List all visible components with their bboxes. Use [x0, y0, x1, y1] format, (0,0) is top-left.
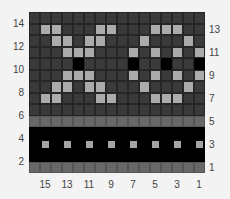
row-label: 5 — [209, 116, 225, 127]
chart-cell — [84, 70, 95, 82]
chart-cell — [117, 58, 128, 70]
chart-cell — [84, 162, 95, 174]
chart-grid — [29, 12, 205, 173]
chart-cell — [183, 104, 194, 116]
chart-cell — [161, 12, 172, 24]
chart-cell — [84, 47, 95, 59]
chart-cell — [106, 12, 117, 24]
chart-cell — [194, 162, 205, 174]
chart-cell — [106, 116, 117, 128]
chart-cell — [128, 116, 139, 128]
chart-cell — [95, 70, 106, 82]
chart-cell — [194, 127, 205, 139]
chart-cell — [95, 139, 106, 151]
chart-cell — [62, 81, 73, 93]
chart-cell — [84, 58, 95, 70]
chart-cell — [183, 93, 194, 105]
chart-cell — [29, 70, 40, 82]
chart-cell — [139, 58, 150, 70]
chart-cell — [194, 12, 205, 24]
chart-cell — [73, 93, 84, 105]
chart-cell — [73, 116, 84, 128]
chart-cell — [29, 150, 40, 162]
chart-cell — [128, 104, 139, 116]
chart-cell — [73, 139, 84, 151]
chart-cell — [128, 24, 139, 36]
chart-cell — [29, 139, 40, 151]
chart-cell — [150, 93, 161, 105]
row-label: 4 — [8, 133, 24, 144]
chart-cell — [183, 139, 194, 151]
chart-cell — [139, 104, 150, 116]
chart-cell — [117, 12, 128, 24]
chart-cell — [194, 58, 205, 70]
chart-cell — [117, 35, 128, 47]
chart-cell — [194, 139, 205, 151]
chart-cell — [183, 24, 194, 36]
chart-cell — [194, 150, 205, 162]
chart-cell — [51, 47, 62, 59]
column-label: 1 — [191, 179, 207, 190]
chart-cell — [161, 70, 172, 82]
chart-cell — [128, 47, 139, 59]
chart-cell — [150, 58, 161, 70]
chart-cell — [95, 116, 106, 128]
chart-cell — [172, 12, 183, 24]
chart-cell — [117, 127, 128, 139]
chart-cell — [128, 127, 139, 139]
chart-cell — [161, 150, 172, 162]
chart-cell — [62, 12, 73, 24]
chart-cell — [106, 24, 117, 36]
chart-cell — [84, 127, 95, 139]
chart-cell — [150, 24, 161, 36]
chart-cell — [73, 35, 84, 47]
chart-cell — [73, 150, 84, 162]
column-label: 11 — [81, 179, 97, 190]
chart-cell — [29, 116, 40, 128]
chart-cell — [40, 81, 51, 93]
chart-cell — [183, 58, 194, 70]
chart-cell — [194, 47, 205, 59]
chart-cell — [172, 58, 183, 70]
chart-cell — [62, 116, 73, 128]
chart-cell — [73, 47, 84, 59]
chart-cell — [172, 35, 183, 47]
row-label: 12 — [8, 41, 24, 52]
chart-cell — [172, 150, 183, 162]
chart-cell — [183, 127, 194, 139]
chart-cell — [139, 116, 150, 128]
column-label: 15 — [37, 179, 53, 190]
chart-cell — [139, 35, 150, 47]
chart-cell — [106, 47, 117, 59]
chart-cell — [29, 127, 40, 139]
chart-cell — [183, 35, 194, 47]
chart-cell — [95, 24, 106, 36]
chart-cell — [161, 81, 172, 93]
chart-cell — [62, 58, 73, 70]
chart-cell — [73, 127, 84, 139]
chart-cell — [95, 150, 106, 162]
chart-cell — [183, 47, 194, 59]
chart-cell — [29, 24, 40, 36]
chart-cell — [194, 81, 205, 93]
chart-cell — [40, 139, 51, 151]
chart-cell — [40, 93, 51, 105]
column-label: 3 — [169, 179, 185, 190]
chart-cell — [51, 70, 62, 82]
chart-cell — [172, 104, 183, 116]
chart-cell — [150, 150, 161, 162]
chart-cell — [62, 150, 73, 162]
chart-cell — [139, 47, 150, 59]
chart-cell — [150, 12, 161, 24]
chart-cell — [139, 93, 150, 105]
chart-cell — [117, 81, 128, 93]
chart-cell — [95, 35, 106, 47]
chart-cell — [128, 35, 139, 47]
chart-cell — [139, 127, 150, 139]
chart-cell — [84, 35, 95, 47]
chart-cell — [29, 162, 40, 174]
chart-cell — [161, 93, 172, 105]
chart-cell — [84, 104, 95, 116]
column-label: 7 — [125, 179, 141, 190]
row-label: 14 — [8, 18, 24, 29]
